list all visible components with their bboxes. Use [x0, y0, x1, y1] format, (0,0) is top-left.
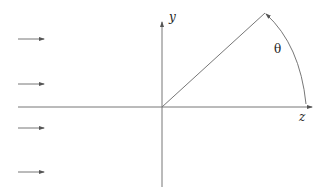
y-axis-label: y — [168, 10, 176, 24]
diagram-svg: y z θ — [0, 0, 326, 187]
z-axis-label: z — [298, 110, 306, 124]
diagram-canvas: y z θ — [0, 0, 326, 187]
angle-theta-label: θ — [274, 42, 281, 56]
incident-arrows — [18, 39, 44, 172]
radial-line — [162, 13, 265, 107]
angle-arc — [266, 14, 306, 104]
